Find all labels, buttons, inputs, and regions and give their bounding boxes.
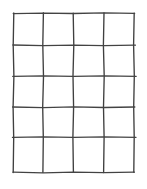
grid-line-vertical-4 [103,13,104,173]
grid-line-horizontal-4 [13,107,135,108]
grid-line-horizontal-3 [13,76,136,77]
grid-line-horizontal-1 [13,13,134,14]
grid-drawing [0,0,147,189]
grid-line-horizontal-6 [13,172,134,173]
grid-line-vertical-3 [73,13,74,172]
grid-line-vertical-2 [43,13,44,173]
figure-canvas [0,0,147,189]
grid-line-vertical-1 [13,13,14,173]
grid-line-horizontal-2 [13,45,135,46]
grid-line-vertical-5 [134,13,135,172]
grid-line-horizontal-5 [13,137,137,138]
